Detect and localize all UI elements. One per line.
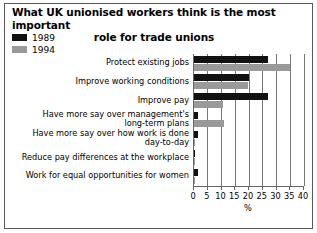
chart-figure: What UK unionised workers think is the m… [0,0,317,233]
category-labels: Protect existing jobsImprove working con… [8,54,191,186]
category-label-line: day-to-day [6,138,189,147]
category-label: Have more say over management'slong-term… [6,110,189,129]
gridline [276,54,277,186]
bar-1994-6 [194,177,195,184]
title-line-1: What UK unionised workers think is the m… [12,6,302,31]
bar-1989-5 [194,150,195,157]
gridline [304,54,305,186]
category-label: Protect existing jobs [6,58,189,67]
bar-1994-0 [194,64,290,71]
category-label-line: Work for equal opportunities for women [6,171,189,180]
category-label-line: Protect existing jobs [6,58,189,67]
legend-label: 1989 [32,33,55,43]
plot-wrapper: Protect existing jobsImprove working con… [8,54,308,224]
category-label-line: Improve pay [6,96,189,105]
x-tick [303,187,304,190]
legend-swatch-icon [12,46,27,53]
bar-1989-4 [194,131,198,138]
category-label: Reduce pay differences at the workplace [6,153,189,162]
bar-1989-0 [194,56,268,63]
bar-1994-5 [194,158,195,165]
gridline [290,54,291,186]
title-line-2: role for trade unions [12,31,302,44]
legend-label: 1994 [32,45,55,55]
x-tick [207,187,208,190]
chart-legend: 19891994 [12,32,55,56]
bar-1989-2 [194,93,268,100]
category-label: Have more say over how work is doneday-t… [6,129,189,148]
bar-1994-4 [194,139,195,146]
x-tick [276,187,277,190]
page-title: What UK unionised workers think is the m… [12,6,302,44]
category-label-line: Improve working conditions [6,77,189,86]
x-tick [221,187,222,190]
category-label-line: Reduce pay differences at the workplace [6,153,189,162]
gridline [262,54,263,186]
x-tick [289,187,290,190]
legend-item-1989: 1989 [12,32,55,43]
plot-area [193,54,304,187]
bar-1989-1 [194,74,249,81]
category-label: Improve working conditions [6,77,189,86]
bar-1994-1 [194,82,248,89]
x-tick-label: 40 [293,191,313,201]
x-tick [234,187,235,190]
x-tick [248,187,249,190]
x-axis-title: % [193,203,303,213]
bar-1989-6 [194,169,198,176]
bar-1994-3 [194,120,224,127]
bar-1994-2 [194,101,223,108]
bar-1989-3 [194,112,198,119]
x-tick [262,187,263,190]
category-label: Work for equal opportunities for women [6,171,189,180]
legend-swatch-icon [12,34,27,41]
category-label: Improve pay [6,96,189,105]
x-tick [193,187,194,190]
